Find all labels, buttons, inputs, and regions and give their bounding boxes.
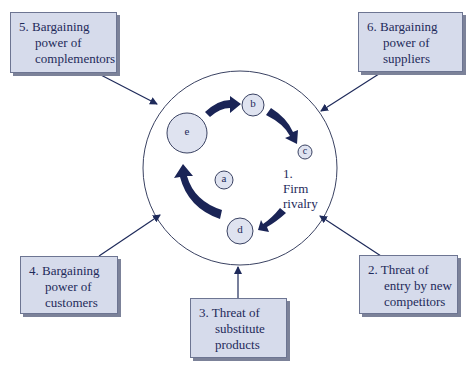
firm-rivalry-number: 1.	[283, 166, 318, 181]
force-box-new-entrants: 2. Threat of entry by new competitors	[359, 255, 458, 314]
force-box-complementors: 5. Bargaining power of complementors	[10, 12, 117, 73]
force-new-entrants-line1: 2. Threat of	[368, 262, 449, 278]
force-box-substitutes: 3. Threat of substitute products	[190, 298, 287, 358]
force-new-entrants-line3: competitors	[368, 294, 449, 310]
force-substitutes-line1: 3. Threat of	[199, 305, 278, 321]
arrow-suppliers	[321, 72, 382, 111]
firm-rivalry-label: 1. Firm rivalry	[283, 166, 318, 211]
node-c-label: c	[300, 145, 310, 156]
node-a-label: a	[218, 172, 230, 184]
firm-rivalry-line1: Firm	[283, 181, 318, 196]
firm-rivalry-line2: rivalry	[283, 196, 318, 211]
force-box-customers: 4. Bargaining power of customers	[20, 256, 118, 314]
force-customers-line3: customers	[29, 295, 109, 311]
force-customers-line2: power of	[29, 279, 109, 295]
force-substitutes-line3: products	[199, 337, 278, 353]
force-suppliers-line1: 6. Bargaining	[367, 19, 454, 35]
force-complementors-line2: power of	[19, 35, 108, 51]
node-d-label: d	[234, 223, 246, 235]
force-box-suppliers: 6. Bargaining power of suppliers	[358, 12, 463, 72]
force-new-entrants-line2: entry by new	[368, 278, 449, 294]
force-customers-line1: 4. Bargaining	[29, 263, 109, 279]
force-suppliers-line2: power of	[367, 35, 454, 51]
node-e-label: e	[181, 125, 193, 137]
force-complementors-line1: 5. Bargaining	[19, 19, 108, 35]
arrow-complementors	[97, 73, 157, 104]
force-suppliers-line3: suppliers	[367, 51, 454, 67]
force-substitutes-line2: substitute	[199, 321, 278, 337]
node-b-label: b	[247, 97, 259, 109]
force-complementors-line3: complementors	[19, 51, 108, 67]
arrow-new-entrants	[320, 216, 381, 256]
arrow-customers	[99, 215, 160, 256]
